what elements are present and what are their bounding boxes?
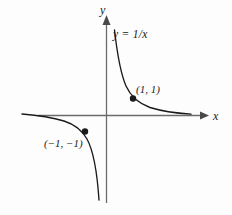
x-axis-arrowhead [200,112,209,120]
data-point-1-1 [130,95,136,101]
curve-upper-right-branch [115,30,192,114]
equation-label: y = 1/x [113,29,148,41]
curve-lower-left-branch [22,114,99,200]
y-axis-label: y [100,4,105,16]
data-point-neg1-neg1 [82,128,88,134]
point-label-1-1: (1, 1) [136,84,160,95]
point-label-neg1-neg1: (−1, −1) [44,138,83,149]
x-axis-label: x [213,110,218,122]
x-axis [38,112,209,120]
y-axis [103,15,111,203]
graph-figure: y x y = 1/x (1, 1) (−1, −1) [0,0,232,215]
